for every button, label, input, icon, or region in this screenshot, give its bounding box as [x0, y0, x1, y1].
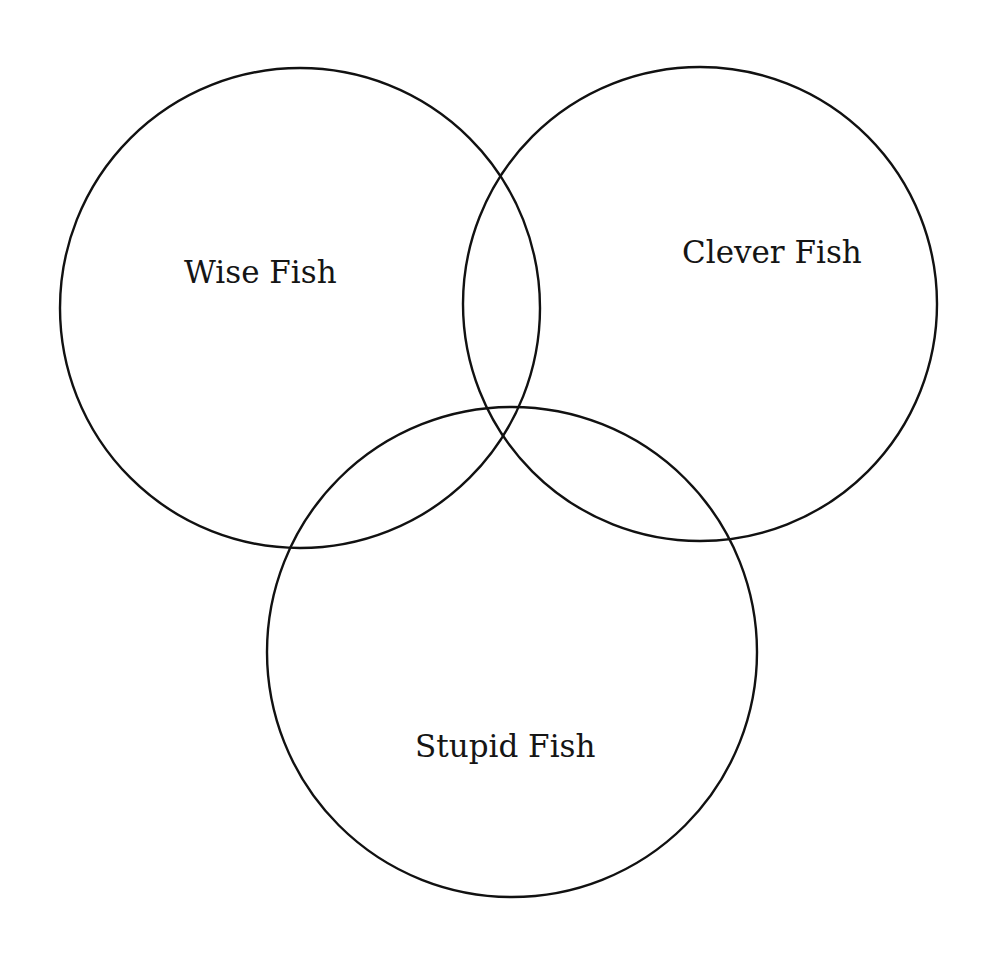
stupid-fish-label: Stupid Fish	[415, 728, 595, 764]
venn-diagram: Wise Fish Clever Fish Stupid Fish	[0, 0, 998, 968]
stupid-fish-circle	[267, 407, 757, 897]
wise-fish-label: Wise Fish	[184, 254, 337, 290]
clever-fish-label: Clever Fish	[682, 234, 862, 270]
clever-fish-circle	[463, 67, 937, 541]
wise-fish-circle	[60, 68, 540, 548]
